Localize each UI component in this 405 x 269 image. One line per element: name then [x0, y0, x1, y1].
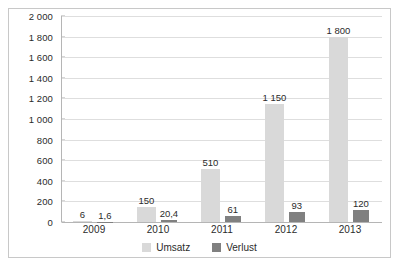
bar-umsatz[interactable]: [265, 104, 284, 222]
legend-item[interactable]: Verlust: [212, 242, 257, 253]
plot-area: 61,615020,4510611 150931 800120: [62, 16, 382, 222]
bar-value-label: 6: [80, 209, 85, 220]
bar-value-label: 150: [139, 195, 155, 206]
y-axis-tick-labels: 02004006008001 0001 2001 4001 6001 8002 …: [13, 16, 57, 222]
plot-wrapper: 02004006008001 0001 2001 4001 6001 8002 …: [9, 9, 390, 257]
bar-value-label: 61: [228, 204, 239, 215]
y-axis-tick-label: 1 600: [29, 52, 53, 63]
bar-value-label: 1 150: [263, 92, 287, 103]
y-axis-tick-label: 200: [37, 196, 53, 207]
y-axis-tick-label: 1 400: [29, 72, 53, 83]
bar-groups: 61,615020,4510611 150931 800120: [62, 16, 382, 222]
x-axis-tick-label: 2013: [318, 224, 382, 240]
legend-item[interactable]: Umsatz: [142, 242, 190, 253]
legend-swatch-icon: [142, 243, 151, 252]
axis-baseline: [62, 222, 382, 223]
chart-legend: UmsatzVerlust: [9, 242, 390, 253]
x-axis-tick-label: 2010: [126, 224, 190, 240]
bar-umsatz[interactable]: [329, 37, 348, 222]
bar-verlust[interactable]: [225, 216, 240, 222]
y-axis-tick-label: 1 000: [29, 114, 53, 125]
chart-container: 02004006008001 0001 2001 4001 6001 8002 …: [8, 8, 391, 258]
bar-group: 15020,4: [126, 16, 190, 222]
bar-umsatz[interactable]: [73, 221, 92, 222]
bar-value-label: 1,6: [98, 210, 111, 221]
bar-group: 61,6: [62, 16, 126, 222]
x-axis-tick-label: 2009: [62, 224, 126, 240]
bar-group: 1 800120: [318, 16, 382, 222]
bar-group: 1 15093: [254, 16, 318, 222]
bar-verlust[interactable]: [289, 212, 304, 222]
bar-verlust[interactable]: [353, 210, 368, 222]
bar-group: 51061: [190, 16, 254, 222]
x-axis-tick-label: 2012: [254, 224, 318, 240]
bar-value-label: 510: [203, 157, 219, 168]
bar-value-label: 120: [353, 198, 369, 209]
bar-verlust[interactable]: [161, 220, 176, 222]
y-axis-tick-label: 1 200: [29, 93, 53, 104]
y-axis-tick-label: 2 000: [29, 11, 53, 22]
y-axis-tick-label: 0: [48, 217, 53, 228]
bar-value-label: 93: [292, 200, 303, 211]
legend-swatch-icon: [212, 243, 221, 252]
x-axis-tick-label: 2011: [190, 224, 254, 240]
bar-value-label: 20,4: [160, 208, 179, 219]
legend-label: Verlust: [226, 242, 257, 253]
y-axis-tick-label: 600: [37, 155, 53, 166]
bar-umsatz[interactable]: [201, 169, 220, 222]
y-axis-tick-label: 400: [37, 175, 53, 186]
y-axis-tick-label: 1 800: [29, 31, 53, 42]
x-axis-tick-labels: 20092010201120122013: [62, 224, 382, 240]
bar-umsatz[interactable]: [137, 207, 156, 222]
bar-value-label: 1 800: [327, 25, 351, 36]
y-axis-tick-label: 800: [37, 134, 53, 145]
legend-label: Umsatz: [156, 242, 190, 253]
